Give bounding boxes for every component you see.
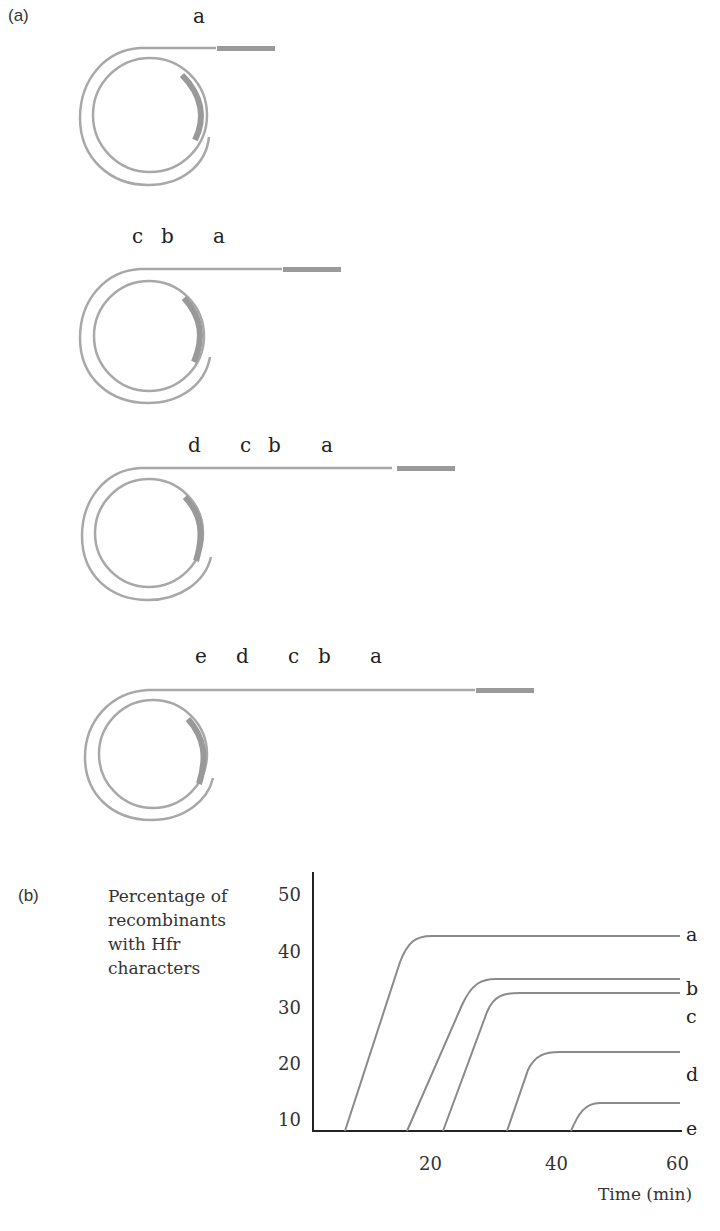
y-tick-40: 40 xyxy=(278,941,301,962)
chart-axes xyxy=(312,872,682,1132)
series-label-c: c xyxy=(686,1005,697,1027)
x-tick-40: 40 xyxy=(545,1153,568,1174)
y-axis-title-line: with Hfr xyxy=(108,932,227,956)
curve-e xyxy=(571,1103,680,1131)
series-label-b: b xyxy=(686,977,698,999)
diagram-canvas xyxy=(0,0,720,1231)
y-tick-50: 50 xyxy=(278,884,301,905)
stage4-plasmid xyxy=(85,688,534,820)
x-tick-60: 60 xyxy=(666,1153,689,1174)
panel-b-label: (b) xyxy=(18,886,39,906)
x-axis-title: Time (min) xyxy=(598,1184,692,1204)
y-axis-title-line: Percentage of xyxy=(108,884,227,908)
chart-curves xyxy=(345,936,680,1131)
stage2-plasmid xyxy=(80,267,341,403)
stage1-plasmid xyxy=(80,46,275,185)
curve-a xyxy=(345,936,680,1131)
curve-c xyxy=(443,993,680,1131)
y-tick-20: 20 xyxy=(278,1053,301,1074)
stage3-plasmid xyxy=(82,466,455,600)
curve-d xyxy=(507,1052,680,1131)
y-axis-title-line: characters xyxy=(108,956,227,980)
y-axis-title-line: recombinants xyxy=(108,908,227,932)
series-label-d: d xyxy=(686,1063,698,1085)
y-tick-30: 30 xyxy=(278,997,301,1018)
y-tick-10: 10 xyxy=(278,1109,301,1130)
series-label-a: a xyxy=(686,923,697,945)
series-label-e: e xyxy=(686,1117,697,1139)
x-tick-20: 20 xyxy=(419,1153,442,1174)
y-axis-title: Percentage of recombinants with Hfr char… xyxy=(108,884,227,980)
